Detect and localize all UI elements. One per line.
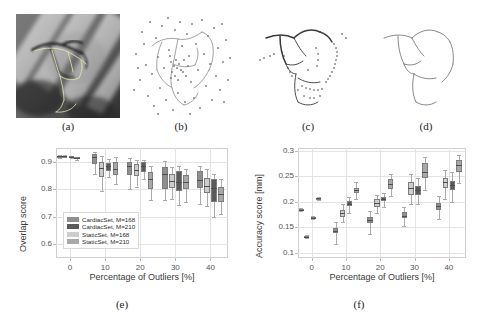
boxplot-whisker-cap xyxy=(423,157,427,158)
vessel-tree-c xyxy=(258,12,358,118)
boxplot-median xyxy=(74,158,79,159)
boxplot-median xyxy=(141,166,146,167)
boxplot-median xyxy=(374,203,379,204)
boxplot-whisker-cap xyxy=(423,190,427,191)
boxplot-whisker-cap xyxy=(75,160,79,161)
x-tick-label: 0 xyxy=(58,263,82,272)
boxplot-whisker-cap xyxy=(416,204,420,205)
boxplot-whisker-cap xyxy=(212,174,216,175)
boxplot-median xyxy=(436,206,441,207)
boxplot-whisker-cap xyxy=(149,166,153,167)
boxplot-whisker-cap xyxy=(305,238,309,239)
boxplot-whisker-cap xyxy=(334,222,338,223)
panel-b-outlier-cloud xyxy=(128,10,234,118)
top-panel-row: (a) xyxy=(0,0,478,135)
boxplot-whisker-cap xyxy=(443,170,447,171)
x-tick-label: 20 xyxy=(128,263,152,272)
x-tick-label: 30 xyxy=(403,263,427,272)
boxplot-median xyxy=(62,156,67,157)
boxplot-whisker-cap xyxy=(198,166,202,167)
x-tick-label: 0 xyxy=(300,263,324,272)
boxplot-whisker-cap xyxy=(135,187,139,188)
x-gridline xyxy=(175,148,176,258)
x-tick xyxy=(105,258,106,261)
panel-c-caption: (c) xyxy=(258,120,358,132)
boxplot-whisker-cap xyxy=(135,160,139,161)
boxplot-whisker-cap xyxy=(341,204,345,205)
panel-d-caption: (d) xyxy=(378,120,474,132)
boxplot-whisker-cap xyxy=(219,214,223,215)
boxplot-whisker-cap xyxy=(437,219,441,220)
boxplot-median xyxy=(381,199,386,200)
boxplot-median xyxy=(127,166,132,167)
boxplot-whisker-cap xyxy=(212,217,216,218)
y-tick xyxy=(53,217,56,218)
y-tick xyxy=(295,227,298,228)
boxplot-median xyxy=(106,166,111,167)
legend-swatch xyxy=(67,217,79,222)
x-tick xyxy=(70,258,71,261)
x-gridline xyxy=(312,148,313,258)
y-tick-label: 0.15 xyxy=(264,222,294,231)
boxplot-box xyxy=(148,172,153,190)
y-tick-label: 0.2 xyxy=(264,197,294,206)
x-axis-title-e: Percentage of Outliers [%] xyxy=(56,272,228,282)
boxplot-median xyxy=(169,181,174,182)
y-tick-label: 0.8 xyxy=(22,184,52,193)
boxplot-whisker-cap xyxy=(163,200,167,201)
x-tick-label: 30 xyxy=(163,263,187,272)
x-tick xyxy=(415,258,416,261)
chart-legend: CardiacSet, M=168CardiacSet, M=210Static… xyxy=(63,212,139,249)
y-axis-title-e: Overlap score xyxy=(18,196,28,252)
boxplot-whisker-cap xyxy=(347,213,351,214)
x-tick xyxy=(175,258,176,261)
boxplot-whisker-cap xyxy=(382,193,386,194)
x-tick xyxy=(346,258,347,261)
boxplot-whisker-cap xyxy=(114,157,118,158)
x-tick-label: 10 xyxy=(334,263,358,272)
boxplot-whisker-cap xyxy=(409,204,413,205)
boxplot-whisker-cap xyxy=(93,174,97,175)
x-gridline xyxy=(210,148,211,258)
outlier-scatter-with-vessel xyxy=(128,10,234,118)
boxplot-whisker-cap xyxy=(402,207,406,208)
boxplot-median xyxy=(113,169,118,170)
boxplot-whisker-cap xyxy=(317,200,321,201)
boxplot-box xyxy=(141,162,146,172)
boxplot-whisker-cap xyxy=(457,183,461,184)
boxplot-median xyxy=(162,174,167,175)
boxplot-median xyxy=(316,198,321,199)
x-tick xyxy=(210,258,211,261)
boxplot-whisker-cap xyxy=(354,182,358,183)
boxplot-whisker-cap xyxy=(107,159,111,160)
boxplot-median xyxy=(422,172,427,173)
boxplot-median xyxy=(408,188,413,189)
y-tick xyxy=(53,244,56,245)
boxplot-box xyxy=(211,179,216,203)
y-tick-label: 0.25 xyxy=(264,171,294,180)
legend-label: StaticSet, M=168 xyxy=(82,231,129,238)
boxplot-median xyxy=(134,170,139,171)
boxplot-whisker-cap xyxy=(334,244,338,245)
boxplot-whisker-cap xyxy=(177,205,181,206)
xray-image xyxy=(16,14,120,118)
boxplot-box xyxy=(162,167,167,189)
x-gridline xyxy=(380,148,381,258)
boxplot-whisker-cap xyxy=(375,213,379,214)
y-axis-title-f: Accuracy score [mm] xyxy=(254,174,264,258)
boxplot-whisker-cap xyxy=(347,197,351,198)
boxplot-whisker-cap xyxy=(163,161,167,162)
boxplot-whisker-cap xyxy=(389,196,393,197)
legend-swatch xyxy=(67,232,79,237)
boxplot-whisker-cap xyxy=(177,166,181,167)
boxplot-whisker-cap xyxy=(205,206,209,207)
legend-item: StaticSet, M=168 xyxy=(67,231,135,238)
panel-a-caption: (a) xyxy=(16,120,120,132)
boxplot-whisker-cap xyxy=(311,219,315,220)
boxplot-whisker-cap xyxy=(128,158,132,159)
boxplot-median xyxy=(347,204,352,205)
boxplot-whisker-cap xyxy=(142,160,146,161)
legend-item: StaticSet, M=210 xyxy=(67,238,135,245)
chart-accuracy-score: 0.10.150.20.250.3010203040 Accuracy scor… xyxy=(244,142,474,294)
boxplot-whisker-cap xyxy=(184,169,188,170)
